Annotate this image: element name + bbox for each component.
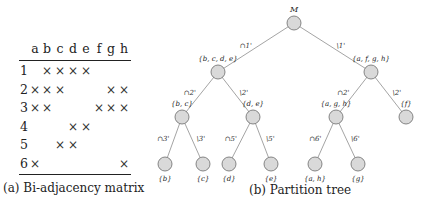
edge-label: \2'	[240, 89, 249, 97]
tree-node	[364, 65, 378, 79]
tree-node	[211, 65, 225, 79]
tree-node	[308, 157, 322, 171]
tree-node	[287, 16, 301, 30]
edge-label: \2'	[393, 89, 402, 97]
partition-tree: ∩1'\1'∩2'\2'∩2'\2'∩3'\3'∩5'\5'∩6'\6' M{b…	[0, 0, 427, 209]
edge-label: ∩2'	[337, 89, 349, 97]
tree-node	[329, 110, 343, 124]
tree-edge	[218, 23, 294, 72]
edge-label: ∩3'	[157, 135, 169, 143]
node-label: {b, c}	[171, 100, 193, 108]
node-label: {b}	[158, 175, 171, 183]
edge-label: \3'	[197, 135, 206, 143]
edge-label: \1'	[337, 42, 346, 50]
tree-node	[222, 157, 236, 171]
tree-node	[246, 110, 260, 124]
node-label: {b, c, d, e}	[198, 55, 237, 63]
tree-node	[351, 157, 365, 171]
edge-label: ∩1'	[240, 42, 252, 50]
tree-node	[264, 157, 278, 171]
node-label: {e}	[264, 175, 277, 183]
edge-label: \5'	[266, 135, 275, 143]
node-label: {a, g, h}	[321, 100, 352, 108]
node-label: {a, f, g, h}	[352, 55, 390, 63]
node-label: {g}	[351, 175, 364, 183]
node-label: {f}	[400, 100, 412, 108]
edge-label: \6'	[351, 135, 360, 143]
node-label: {d}	[222, 175, 235, 183]
edge-label: ∩6'	[309, 135, 321, 143]
node-label: M	[289, 5, 299, 14]
edge-label: ∩2'	[184, 89, 196, 97]
node-label: {c}	[197, 175, 210, 183]
node-label: {d, e}	[242, 100, 264, 108]
tree-node	[158, 157, 172, 171]
node-label: {a, h}	[304, 175, 326, 183]
tree-edge	[294, 23, 371, 72]
caption-b: (b) Partition tree	[249, 183, 351, 197]
edge-label: ∩5'	[225, 135, 237, 143]
tree-node	[175, 110, 189, 124]
tree-node	[196, 157, 210, 171]
tree-node	[399, 110, 413, 124]
